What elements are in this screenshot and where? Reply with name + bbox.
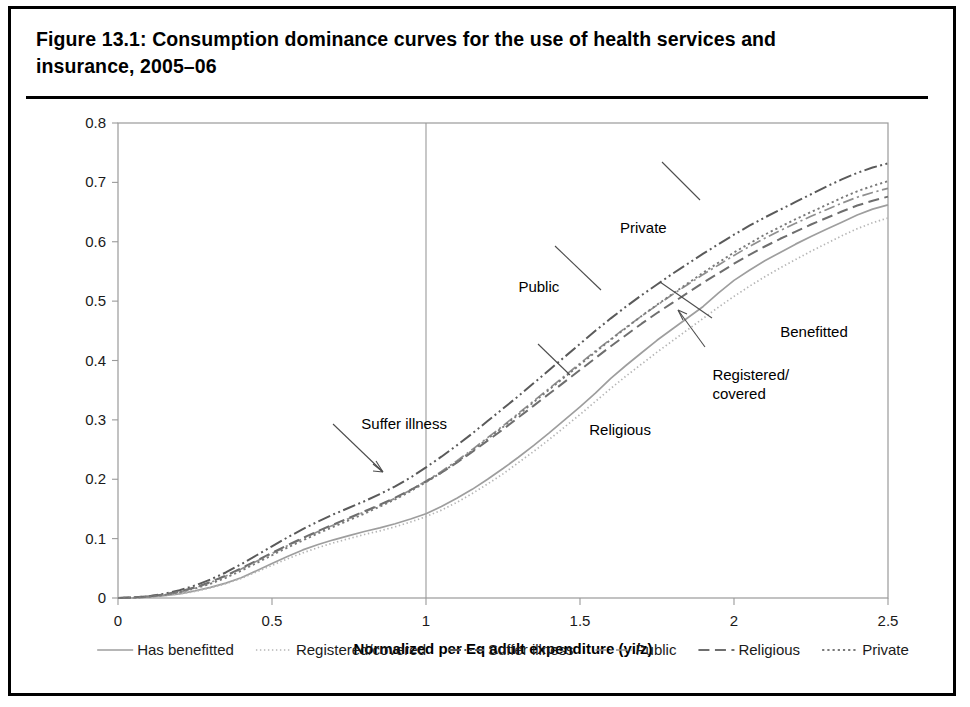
x-tick-label-0: 0 (114, 612, 122, 629)
annotation-leader-3 (660, 282, 712, 318)
annotation-suffer-illness: Suffer illness (361, 415, 447, 432)
y-tick-label-0.1: 0.1 (85, 530, 106, 547)
x-tick-label-1.5: 1.5 (570, 612, 591, 629)
annotation-public: Public (518, 278, 559, 295)
y-tick-label-0.6: 0.6 (85, 233, 106, 250)
curve-public (118, 188, 888, 598)
plot-frame (118, 123, 888, 598)
y-tick-label-0.5: 0.5 (85, 292, 106, 309)
legend-label-registered-covered[interactable]: Registered/covered (296, 641, 426, 658)
legend-label-religious[interactable]: Religious (738, 641, 800, 658)
y-tick-label-0: 0 (98, 589, 106, 606)
annotation-religious: Religious (589, 421, 651, 438)
figure-container: Figure 13.1: Consumption dominance curve… (0, 0, 970, 707)
legend-label-has-benefitted[interactable]: Has benefitted (137, 641, 234, 658)
annotation-leader-1 (662, 162, 700, 200)
annotation-leader-6 (538, 344, 570, 375)
x-tick-label-2.5: 2.5 (878, 612, 899, 629)
chart-plot-area: 00.10.20.30.40.50.60.70.800.511.522.5Nor… (0, 104, 948, 664)
consumption-dominance-chart: 00.10.20.30.40.50.60.70.800.511.522.5Nor… (0, 104, 948, 664)
x-tick-label-0.5: 0.5 (262, 612, 283, 629)
annotation-leader-2 (555, 246, 601, 290)
legend-label-suffer-illness[interactable]: Suffer illness (488, 641, 574, 658)
curve-has-benefitted (118, 205, 888, 598)
annotation-covered: covered (712, 385, 765, 402)
legend-label-private[interactable]: Private (862, 641, 909, 658)
y-tick-label-0.2: 0.2 (85, 470, 106, 487)
x-tick-label-1: 1 (422, 612, 430, 629)
x-tick-label-2: 2 (730, 612, 738, 629)
y-tick-label-0.8: 0.8 (85, 114, 106, 131)
annotation-benefitted: Benefitted (780, 323, 848, 340)
legend-label-public[interactable]: Public (636, 641, 677, 658)
title-divider (26, 96, 928, 99)
y-tick-label-0.4: 0.4 (85, 352, 106, 369)
annotation-registered-: Registered/ (712, 366, 790, 383)
annotation-private: Private (620, 219, 667, 236)
y-tick-label-0.7: 0.7 (85, 173, 106, 190)
y-tick-label-0.3: 0.3 (85, 411, 106, 428)
figure-title: Figure 13.1: Consumption dominance curve… (36, 26, 876, 80)
